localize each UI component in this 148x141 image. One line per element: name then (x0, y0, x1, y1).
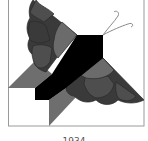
figure-caption: 1934 (0, 136, 148, 141)
butterfly-quilt-block (0, 0, 148, 141)
